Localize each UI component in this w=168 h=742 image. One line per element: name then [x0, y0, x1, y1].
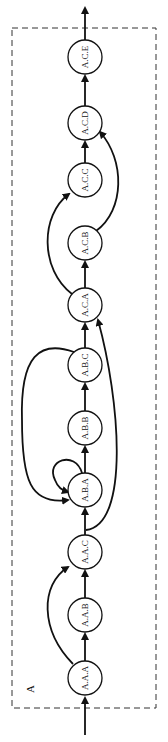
process-diagram: A A.A.AA.A.BA.A.CA.B.AA.B.BA.B.CA.C.AA.C… — [0, 0, 168, 742]
node-label: A.B.A — [80, 478, 90, 502]
node-label: A.A.C — [80, 540, 90, 564]
node-label: A.A.A — [80, 666, 90, 690]
node-label: A.B.B — [80, 416, 90, 439]
node-a-b-b: A.B.B — [68, 411, 102, 445]
node-label: A.C.C — [80, 168, 90, 191]
node-label: A.B.C — [80, 353, 90, 376]
node-label: A.A.B — [80, 603, 90, 627]
node-a-c-c: A.C.C — [68, 163, 102, 197]
node-a-b-c: A.B.C — [68, 348, 102, 382]
node-a-a-b: A.A.B — [68, 598, 102, 632]
boundary-label: A — [24, 685, 36, 693]
edge-ABC-to-ABA — [22, 348, 74, 500]
node-label: A.C.B — [80, 231, 90, 254]
node-a-c-d: A.C.D — [68, 106, 102, 140]
node-a-c-b: A.C.B — [68, 226, 102, 260]
node-label: A.C.D — [80, 111, 90, 135]
node-label: A.C.A — [80, 293, 90, 317]
node-a-b-a: A.B.A — [68, 473, 102, 507]
node-a-a-c: A.A.C — [68, 535, 102, 569]
node-a-c-e: A.C.E — [68, 40, 102, 74]
node-label: A.C.E — [80, 45, 90, 68]
node-a-a-a: A.A.A — [68, 661, 102, 695]
node-a-c-a: A.C.A — [68, 288, 102, 322]
